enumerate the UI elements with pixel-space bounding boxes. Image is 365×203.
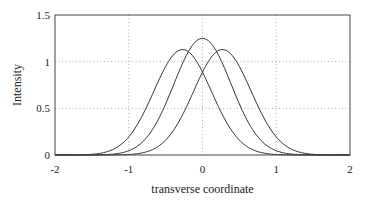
curve-center: [55, 38, 350, 155]
x-tick-label: -2: [50, 163, 59, 175]
y-axis-label: Intensity: [10, 64, 24, 106]
x-tick-label: 1: [274, 163, 280, 175]
x-tick-label: 0: [200, 163, 206, 175]
y-tick-labels: 00.511.5: [36, 9, 50, 161]
y-tick-label: 1: [45, 56, 51, 68]
x-tick-label: 2: [347, 163, 353, 175]
data-curves: [55, 38, 350, 155]
grid-lines: [55, 15, 350, 155]
y-tick-label: 0.5: [36, 102, 50, 114]
x-tick-label: -1: [124, 163, 133, 175]
x-axis-label: transverse coordinate: [151, 182, 253, 196]
y-tick-label: 0: [45, 149, 51, 161]
y-tick-label: 1.5: [36, 9, 50, 21]
line-chart: -2-1012 00.511.5 transverse coordinate I…: [0, 0, 365, 203]
curve-left-shifted: [55, 50, 350, 155]
curve-right-shifted: [55, 50, 350, 155]
x-tick-labels: -2-1012: [50, 163, 352, 175]
